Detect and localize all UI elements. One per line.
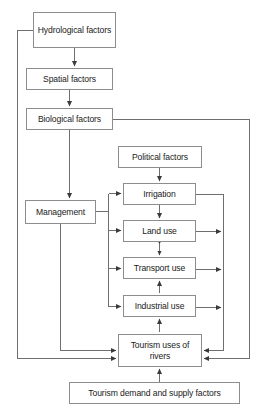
node-transport-use[interactable]: Transport use — [123, 257, 196, 279]
node-biological-factors[interactable]: Biological factors — [26, 108, 113, 130]
node-label: Spatial factors — [43, 74, 96, 84]
node-label: Hydrological factors — [38, 25, 111, 35]
node-label: Transport use — [134, 263, 185, 273]
node-management[interactable]: Management — [25, 200, 96, 224]
node-tourism-uses-of-rivers[interactable]: Tourism uses of rivers — [118, 334, 202, 367]
node-political-factors[interactable]: Political factors — [118, 146, 202, 168]
node-spatial-factors[interactable]: Spatial factors — [26, 68, 113, 90]
node-label: Industrial use — [135, 301, 185, 311]
node-label: Political factors — [132, 152, 188, 162]
edge-management-to-tourism — [61, 224, 117, 351]
node-label: Irrigation — [143, 189, 175, 199]
node-label: Management — [36, 207, 85, 217]
node-land-use[interactable]: Land use — [123, 220, 196, 242]
node-irrigation[interactable]: Irrigation — [123, 183, 196, 205]
node-label: Biological factors — [38, 114, 101, 124]
flowchart-diagram: Hydrological factors Spatial factors Bio… — [0, 0, 262, 413]
node-tourism-demand-and-supply-factors[interactable]: Tourism demand and supply factors — [69, 382, 240, 404]
node-industrial-use[interactable]: Industrial use — [123, 295, 196, 317]
node-hydrological-factors[interactable]: Hydrological factors — [33, 12, 116, 48]
node-label: Tourism uses of rivers — [121, 340, 199, 360]
node-label: Tourism demand and supply factors — [88, 388, 220, 398]
node-label: Land use — [142, 226, 177, 236]
inner-rail — [204, 195, 224, 351]
